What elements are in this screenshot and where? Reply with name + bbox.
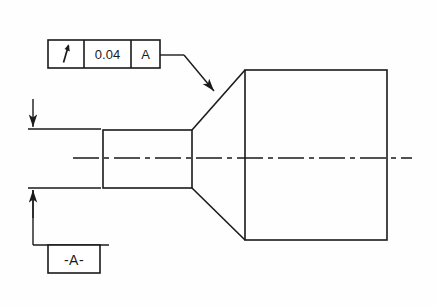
datum-feature-label: -A-	[64, 252, 84, 268]
large-cylinder-outline	[245, 70, 387, 240]
part-outline	[103, 70, 387, 240]
datum-feature-symbol-a[interactable]: -A-	[48, 245, 100, 273]
small-cylinder-outline	[103, 130, 192, 188]
datum-witness-group	[28, 99, 109, 245]
cone-top-edge	[192, 70, 245, 130]
technical-drawing-svg: 0.04 A -A-	[0, 0, 436, 307]
cone-bottom-edge	[192, 188, 245, 240]
tolerance-value: 0.04	[95, 47, 120, 62]
leader-line-to-cone	[160, 55, 214, 91]
datum-reference-letter: A	[141, 47, 150, 62]
feature-control-frame[interactable]: 0.04 A	[48, 40, 160, 68]
leader-diagonal-segment	[184, 55, 214, 91]
engineering-drawing-canvas: 0.04 A -A-	[0, 0, 436, 307]
